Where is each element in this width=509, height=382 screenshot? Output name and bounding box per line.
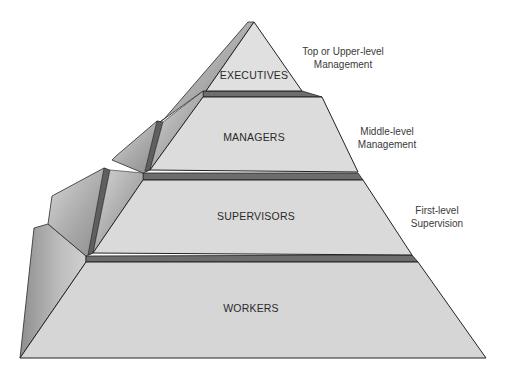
- supervisors-note-line1: First-level: [411, 205, 463, 218]
- executives-label: EXECUTIVES: [220, 69, 289, 81]
- executives-note-line2: Management: [302, 59, 384, 72]
- pyramid-graphic: [0, 0, 509, 382]
- managers-note-line2: Management: [358, 139, 416, 152]
- workers-ledge: [86, 255, 418, 262]
- workers-label: WORKERS: [223, 302, 279, 314]
- executives-note: Top or Upper-level Management: [302, 46, 384, 71]
- managers-note: Middle-level Management: [358, 126, 416, 151]
- supervisors-note-line2: Supervision: [411, 218, 463, 231]
- supervisors-note: First-level Supervision: [411, 205, 463, 230]
- managers-ledge: [203, 91, 322, 97]
- managers-label: MANAGERS: [223, 131, 285, 143]
- supervisors-label: SUPERVISORS: [217, 210, 295, 222]
- managers-note-line1: Middle-level: [358, 126, 416, 139]
- executives-note-line1: Top or Upper-level: [302, 46, 384, 59]
- supervisors-ledge: [143, 173, 363, 180]
